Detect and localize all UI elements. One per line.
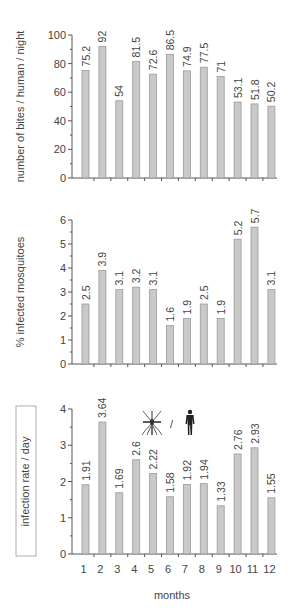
bar-value-label: 5.7 (249, 208, 261, 223)
bar-value-label: 77.5 (198, 43, 210, 64)
x-tick-label: 12 (263, 563, 275, 575)
bar-value-label: 86.5 (164, 30, 176, 51)
x-tick-label: 9 (216, 563, 222, 575)
bar-value-label: 1.91 (80, 460, 92, 481)
x-tick-label: 8 (199, 563, 205, 575)
bar-value-label: 1.55 (265, 473, 277, 494)
bar-month-7 (183, 318, 190, 364)
bar-value-label: 75.2 (80, 46, 92, 67)
bar-month-1 (82, 485, 89, 554)
bar-month-9 (217, 76, 224, 178)
bar-value-label: 2.93 (249, 423, 261, 444)
bar-value-label: 3.9 (96, 252, 108, 267)
bar-month-8 (200, 67, 207, 178)
bar-value-label: 1.6 (164, 307, 176, 322)
y-tick-label: 80 (54, 58, 66, 70)
bar-value-label: 3.64 (96, 397, 108, 418)
bar-month-10 (234, 102, 241, 178)
bar-month-12 (268, 290, 275, 364)
bar-month-1 (82, 70, 89, 178)
y-tick-label: 1 (60, 334, 66, 346)
chart-canvas: 020406080100number of bites / human / ni… (0, 0, 295, 613)
bar-month-4 (133, 61, 140, 178)
x-tick-label: 1 (80, 563, 86, 575)
y-tick-label: 3 (60, 286, 66, 298)
bar-month-3 (116, 290, 123, 364)
bar-month-11 (251, 104, 258, 178)
bar-month-4 (133, 287, 140, 364)
bar-value-label: 72.6 (147, 50, 159, 71)
bar-month-2 (99, 422, 106, 554)
y-tick-label: 2 (60, 310, 66, 322)
bar-value-label: 71 (215, 61, 227, 73)
bar-value-label: 92 (96, 31, 108, 43)
y-tick-label: 0 (60, 358, 66, 370)
bar-value-label: 53.1 (232, 77, 244, 98)
bar-value-label: 2.22 (147, 449, 159, 470)
bar-month-11 (251, 227, 258, 364)
x-tick-label: 3 (114, 563, 120, 575)
x-tick-label: 11 (247, 563, 258, 575)
chart-panels: 020406080100number of bites / human / ni… (14, 29, 277, 560)
bar-month-3 (116, 493, 123, 554)
y-tick-label: 100 (48, 29, 66, 41)
bar-month-12 (268, 106, 275, 178)
bar-value-label: 1.9 (215, 300, 227, 315)
bar-value-label: 2.6 (130, 441, 142, 456)
bar-value-label: 3.2 (130, 268, 142, 283)
y-tick-label: 1 (60, 512, 66, 524)
y-axis-title: infection rate / day (19, 436, 31, 526)
y-tick-label: 6 (60, 214, 66, 226)
bar-month-1 (82, 304, 89, 364)
bar-value-label: 3.1 (147, 271, 159, 286)
y-tick-label: 0 (60, 172, 66, 184)
bar-month-10 (234, 454, 241, 554)
y-tick-label: 5 (60, 238, 66, 250)
x-axis-month-labels: 123456789101112 (80, 563, 275, 575)
bar-value-label: 1.9 (181, 300, 193, 315)
x-tick-label: 6 (165, 563, 171, 575)
bar-month-4 (133, 460, 140, 554)
bar-month-7 (183, 71, 190, 178)
bar-month-2 (99, 270, 106, 364)
bar-value-label: 2.5 (80, 285, 92, 300)
x-tick-label: 2 (97, 563, 103, 575)
bar-value-label: 1.69 (113, 468, 125, 489)
y-axis-title: number of bites / human / night (14, 31, 26, 183)
bar-month-5 (150, 474, 157, 554)
y-tick-label: 40 (54, 115, 66, 127)
bar-value-label: 1.92 (181, 460, 193, 481)
x-tick-label: 4 (131, 563, 137, 575)
bar-value-label: 2.5 (198, 285, 210, 300)
bar-value-label: 54 (113, 85, 125, 97)
human-icon (186, 410, 195, 435)
bar-month-6 (167, 326, 174, 364)
y-tick-label: 60 (54, 86, 66, 98)
bar-value-label: 50.2 (265, 82, 277, 103)
bar-month-7 (183, 484, 190, 554)
bar-month-11 (251, 448, 258, 554)
bar-value-label: 74.9 (181, 46, 193, 67)
y-axis-title: % infected mosquitoes (14, 236, 26, 347)
bar-month-2 (99, 46, 106, 178)
bar-month-8 (200, 484, 207, 554)
bar-value-label: 5.2 (232, 220, 244, 235)
bar-value-label: 2.76 (232, 429, 244, 450)
bar-month-6 (167, 497, 174, 554)
y-tick-label: 0 (60, 548, 66, 560)
y-tick-label: 4 (60, 262, 66, 274)
x-tick-label: 5 (148, 563, 154, 575)
bar-value-label: 3.1 (113, 271, 125, 286)
bar-month-5 (150, 74, 157, 178)
bar-value-label: 51.8 (249, 79, 261, 100)
y-tick-label: 3 (60, 439, 66, 451)
chart-panel-2: 0123456% infected mosquitoes2.53.93.13.2… (14, 208, 277, 370)
bar-month-9 (217, 506, 224, 554)
mosquito-icon (142, 411, 162, 435)
y-tick-label: 4 (60, 403, 66, 415)
chart-panel-1: 020406080100number of bites / human / ni… (14, 29, 277, 184)
bar-value-label: 1.33 (215, 481, 227, 502)
x-axis-title: months (154, 589, 191, 601)
y-tick-label: 20 (54, 143, 66, 155)
bar-value-label: 1.58 (164, 472, 176, 493)
